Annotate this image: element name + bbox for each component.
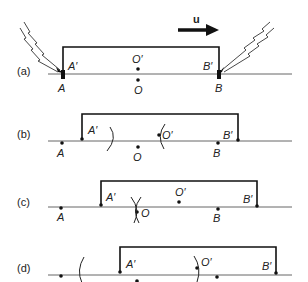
point-B-prime [255, 204, 259, 208]
point-O-prime [177, 200, 181, 204]
label-B-prime: B′ [243, 193, 253, 205]
point-B [215, 275, 219, 279]
label-A: A [57, 82, 65, 94]
label-A-prime: A′ [125, 258, 136, 270]
label-O: O [141, 207, 150, 219]
light-wavefront-left [79, 257, 84, 282]
panel-label-d: (d) [17, 262, 30, 274]
point-A [60, 141, 64, 145]
label-B-prime: B′ [262, 260, 272, 272]
label-A-prime: A′ [67, 60, 78, 72]
point-B-prime [236, 138, 240, 142]
point-A-prime [99, 203, 103, 207]
label-O-prime: O′ [201, 256, 213, 268]
label-B-prime: B′ [203, 60, 213, 72]
panel-label-b: (b) [17, 128, 30, 140]
label-O: O [133, 151, 142, 163]
lightning-bolt-icon [218, 22, 274, 74]
point-A-prime [80, 137, 84, 141]
light-wavefront-left [107, 127, 113, 151]
label-A: A [56, 147, 64, 159]
point-O [136, 145, 140, 149]
label-O-prime: O′ [132, 53, 144, 65]
point-A [59, 206, 63, 210]
label-O-prime: O′ [175, 186, 187, 198]
panel-label-a: (a) [17, 65, 30, 77]
label-B: B [215, 82, 222, 94]
label-B: B [213, 147, 220, 159]
label-O-prime: O′ [162, 129, 174, 141]
point-B [216, 141, 220, 145]
velocity-label: u [193, 13, 200, 25]
label-B-prime: B′ [223, 129, 233, 141]
velocity-arrow [178, 24, 219, 36]
panel-d: (d) A′ O′ B′ [17, 247, 292, 282]
point-A [59, 274, 63, 278]
point-B-prime [274, 271, 278, 275]
panel-label-c: (c) [17, 196, 30, 208]
point-O [136, 78, 140, 82]
point-B [216, 207, 220, 211]
point-B [217, 70, 221, 79]
label-A-prime: A′ [105, 191, 116, 203]
point-O-prime [136, 67, 140, 71]
label-O: O [134, 84, 143, 96]
panel-b: (b) A′ O′ B′ A O B [17, 114, 292, 163]
label-B: B [213, 212, 220, 224]
point-A [61, 70, 65, 79]
panel-a: (a) A′ O′ B′ A O B [17, 22, 292, 96]
label-A: A [56, 211, 64, 223]
panel-c: (c) A′ O′ B′ A O B [17, 181, 292, 224]
point-A-prime [118, 270, 122, 274]
simultaneity-diagram: u (a) A′ O′ B′ A O B (b) [0, 0, 308, 282]
label-A-prime: A′ [87, 124, 98, 136]
